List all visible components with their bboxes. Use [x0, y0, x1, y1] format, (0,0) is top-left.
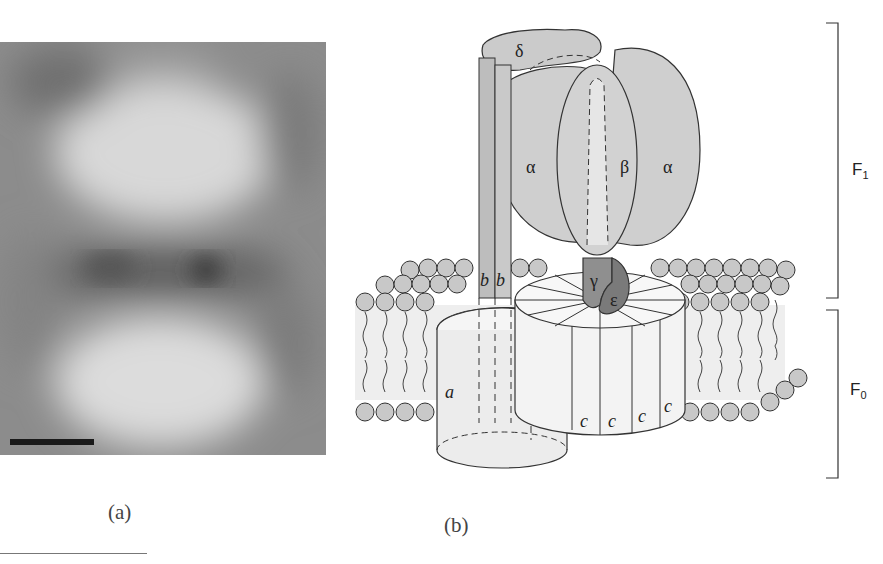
label-b1: b: [480, 270, 489, 290]
label-alpha-right: α: [663, 157, 673, 177]
atp-synthase-diagram: δ α β α γ ε b b a c c c c: [340, 0, 883, 480]
label-b2: b: [496, 270, 505, 290]
label-beta: β: [620, 157, 629, 177]
label-c3: c: [638, 406, 646, 426]
label-alpha-left: α: [526, 157, 536, 177]
label-epsilon: ε: [610, 290, 618, 310]
bracket-f1: [826, 23, 838, 298]
label-f1: F1: [852, 160, 869, 181]
schematic-panel-b: δ α β α γ ε b b a c c c c: [340, 0, 883, 480]
label-c1: c: [580, 411, 588, 431]
label-a: a: [445, 382, 454, 402]
label-c2: c: [608, 411, 616, 431]
label-delta: δ: [515, 41, 523, 61]
caption-a: (a): [108, 500, 131, 525]
scale-bar: [10, 439, 94, 445]
label-c4: c: [664, 396, 672, 416]
label-gamma: γ: [589, 271, 598, 291]
label-f0: F0: [850, 380, 867, 401]
micrograph-panel-a: [0, 42, 326, 455]
micrograph-image: [0, 42, 326, 455]
caption-b: (b): [444, 513, 469, 538]
footnote-rule: [0, 553, 147, 554]
bracket-f0: [826, 310, 838, 478]
